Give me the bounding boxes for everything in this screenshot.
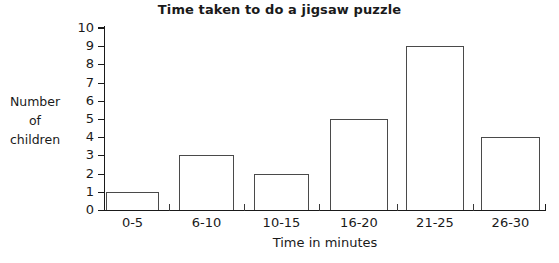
bar	[406, 46, 464, 210]
x-axis-category-label: 16-20	[324, 215, 394, 230]
y-axis-tick	[98, 64, 105, 65]
y-axis-tick-label: 3	[68, 148, 94, 161]
y-axis-tick-label: 6	[68, 94, 94, 107]
x-axis-tick	[473, 204, 474, 211]
y-axis-tick	[98, 28, 105, 29]
x-axis-category-label: 21-25	[400, 215, 470, 230]
x-axis-category-label: 10-15	[247, 215, 317, 230]
y-axis-title: Number of children	[2, 92, 68, 149]
y-axis-tick-label: 8	[68, 57, 94, 70]
y-axis-tick	[98, 119, 105, 120]
x-axis-category-label: 6-10	[172, 215, 242, 230]
y-axis-tick-label: 7	[68, 76, 94, 89]
x-axis-tick	[169, 204, 170, 211]
bar	[481, 137, 540, 210]
x-axis-tick	[244, 204, 245, 211]
histogram-figure: Time taken to do a jigsaw puzzle Number …	[0, 0, 559, 263]
y-axis-tick	[98, 101, 105, 102]
bar	[254, 174, 309, 210]
y-axis-title-line-1: Number	[2, 92, 68, 111]
chart-title: Time taken to do a jigsaw puzzle	[0, 2, 559, 17]
x-axis-tick	[397, 204, 398, 211]
x-axis-title: Time in minutes	[105, 235, 545, 250]
bar	[330, 119, 388, 210]
x-axis-line	[104, 210, 546, 211]
y-axis-tick	[98, 210, 105, 211]
y-axis-tick-label: 9	[68, 39, 94, 52]
x-axis-tick	[319, 204, 320, 211]
y-axis-tick	[98, 83, 105, 84]
y-axis-tick	[98, 155, 105, 156]
y-axis-tick	[98, 174, 105, 175]
y-axis-tick	[98, 192, 105, 193]
y-axis-tick-label: 1	[68, 185, 94, 198]
y-axis-tick	[98, 46, 105, 47]
bar	[106, 192, 159, 210]
x-axis-category-label: 0-5	[98, 215, 168, 230]
y-axis-tick-label: 0	[68, 203, 94, 216]
y-axis-tick-label: 2	[68, 167, 94, 180]
y-axis-tick-label: 5	[68, 112, 94, 125]
bar	[179, 155, 234, 210]
y-axis-tick-label: 10	[68, 21, 94, 34]
y-axis-tick	[98, 137, 105, 138]
x-axis-category-label: 26-30	[476, 215, 546, 230]
y-axis-tick-label: 4	[68, 130, 94, 143]
x-axis-right-cap	[545, 204, 546, 211]
y-axis-title-line-3: children	[2, 130, 68, 149]
y-axis-title-line-2: of	[2, 111, 68, 130]
